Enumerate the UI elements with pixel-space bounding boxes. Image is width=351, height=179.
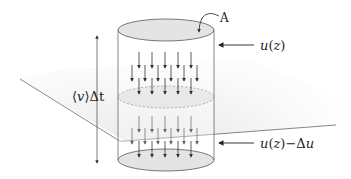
- cylinder: [118, 19, 214, 171]
- upper-velocity-label: u(z): [260, 38, 285, 53]
- flux-diagram: ⟨v⟩Δt A u(z) u(z)−Δu: [0, 0, 351, 179]
- lower-velocity-label: u(z)−Δu: [260, 136, 314, 151]
- area-label: A: [219, 11, 229, 25]
- bottom-cap: [118, 149, 214, 171]
- top-cap: [118, 19, 214, 41]
- middle-cross-section: [118, 86, 214, 108]
- height-label: ⟨v⟩Δt: [72, 89, 105, 104]
